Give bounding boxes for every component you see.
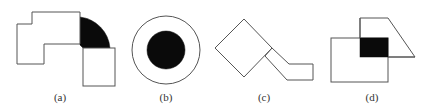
small-square [83, 48, 115, 86]
figure-canvas: (a) (b) (c) (d) [0, 0, 426, 111]
intersection-region [360, 38, 388, 57]
bent-arm [265, 48, 313, 80]
label-c: (c) [258, 91, 271, 104]
inner-disk [147, 31, 185, 69]
panel-a: (a) [17, 12, 115, 104]
label-a: (a) [54, 91, 67, 104]
panel-d: (d) [331, 18, 415, 104]
label-d: (d) [366, 91, 379, 104]
panel-b: (b) [132, 16, 200, 104]
quarter-ring-region [80, 17, 110, 48]
panel-c: (c) [215, 19, 313, 104]
rotated-square [215, 19, 272, 77]
label-b: (b) [160, 91, 173, 104]
stepped-polygon [17, 12, 80, 64]
